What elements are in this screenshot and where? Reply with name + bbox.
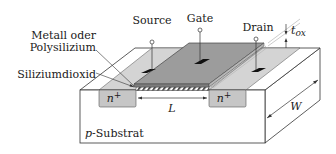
substrate-label: p-Substrat bbox=[85, 127, 144, 140]
gate-oxide-hatch bbox=[136, 87, 209, 91]
oxide-label: Siliziumdioxid bbox=[17, 68, 96, 81]
gate-front-face bbox=[134, 84, 209, 87]
gate-terminal-icon bbox=[198, 28, 202, 32]
length-label: L bbox=[167, 102, 175, 115]
source-terminal-icon bbox=[150, 40, 154, 44]
tox-label: tox bbox=[291, 24, 306, 38]
width-label: W bbox=[290, 100, 303, 113]
gate-label: Gate bbox=[187, 12, 213, 25]
source-label: Source bbox=[132, 14, 171, 27]
drain-label: Drain bbox=[242, 21, 273, 34]
metal-label-line2: Polysilizium bbox=[30, 41, 97, 54]
mosfet-diagram: Source Gate Drain tox Metall oder Polysi… bbox=[0, 0, 336, 154]
drain-terminal-icon bbox=[254, 37, 258, 41]
